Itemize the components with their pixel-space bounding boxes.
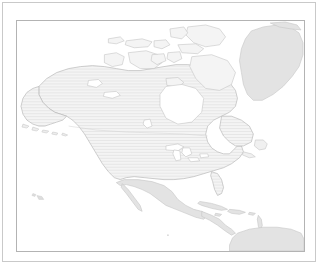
map-frame[interactable] [16,20,305,252]
ocean-marker-dot [167,234,169,236]
north-america-map[interactable] [17,21,304,251]
map-title [17,251,18,252]
page-root [0,0,323,270]
lake-ontario-shape [200,154,209,158]
